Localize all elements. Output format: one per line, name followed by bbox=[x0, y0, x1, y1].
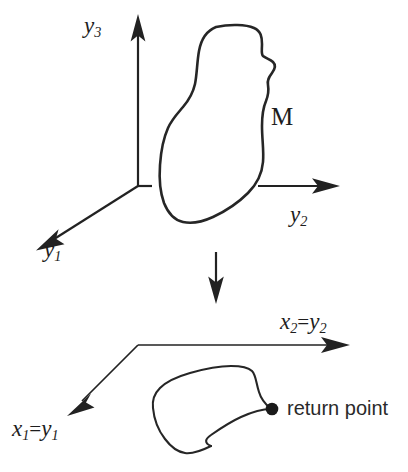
manifold-m-outline bbox=[160, 25, 275, 223]
manifold-label-m: M bbox=[271, 104, 293, 129]
axis-label-x1-rhs-subscript: 1 bbox=[52, 427, 59, 443]
figure-root: y3 y2 y1 M x2=y2 x1=y1 return point bbox=[0, 0, 408, 472]
x1-axis-line bbox=[82, 345, 138, 401]
return-point-label: return point bbox=[287, 398, 388, 418]
axis-label-y2: y2 bbox=[290, 203, 307, 228]
axis-label-x2-rhs-base: y bbox=[309, 309, 319, 334]
axis-label-x2-rhs-subscript: 2 bbox=[320, 320, 327, 336]
return-point-dot bbox=[266, 403, 279, 416]
axis-label-x1-equals: = bbox=[29, 417, 41, 441]
projection-arrow-group bbox=[208, 252, 224, 304]
axis-label-x1-rhs-base: y bbox=[41, 416, 51, 441]
axis-label-y3-base: y bbox=[84, 13, 94, 38]
axis-label-y1-subscript: 1 bbox=[54, 248, 61, 264]
axis-label-x2-base: x bbox=[280, 309, 290, 334]
axis-label-y2-subscript: 2 bbox=[300, 213, 307, 229]
axis-label-y2-base: y bbox=[290, 202, 300, 227]
projected-loop-group bbox=[153, 366, 279, 453]
projected-loop-inner-branch bbox=[206, 409, 271, 446]
x1-axis-arrowhead bbox=[67, 394, 95, 417]
axis-label-x2-equals-y2: x2=y2 bbox=[280, 310, 327, 335]
axis-label-x1-equals-y1: x1=y1 bbox=[12, 417, 59, 442]
y1-axis-line bbox=[51, 186, 138, 241]
axis-label-y1: y1 bbox=[44, 238, 61, 263]
projected-loop-outer-branch bbox=[153, 366, 271, 453]
axis-label-y1-base: y bbox=[44, 237, 54, 262]
axis-label-x1-base: x bbox=[12, 416, 22, 441]
axis-label-x2-equals: = bbox=[297, 310, 309, 334]
axis-label-y3-subscript: 3 bbox=[94, 24, 101, 40]
axis-label-y3: y3 bbox=[84, 14, 101, 39]
